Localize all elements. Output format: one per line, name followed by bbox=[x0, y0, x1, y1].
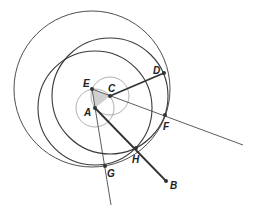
point-f bbox=[163, 113, 167, 117]
point-e bbox=[90, 87, 94, 91]
label-e: E bbox=[83, 78, 90, 89]
label-h: H bbox=[132, 154, 140, 165]
segment-cd bbox=[110, 73, 164, 96]
label-a: A bbox=[83, 107, 91, 118]
point-c bbox=[108, 94, 112, 98]
point-h bbox=[134, 146, 138, 150]
label-c: C bbox=[108, 83, 116, 94]
point-a bbox=[93, 106, 97, 110]
label-b: B bbox=[170, 180, 177, 191]
label-f: F bbox=[163, 121, 170, 132]
label-d: D bbox=[153, 65, 160, 76]
geometry-diagram: A B C D E F G H bbox=[0, 0, 258, 213]
point-b bbox=[164, 179, 168, 183]
point-d bbox=[162, 71, 166, 75]
label-g: G bbox=[107, 168, 115, 179]
